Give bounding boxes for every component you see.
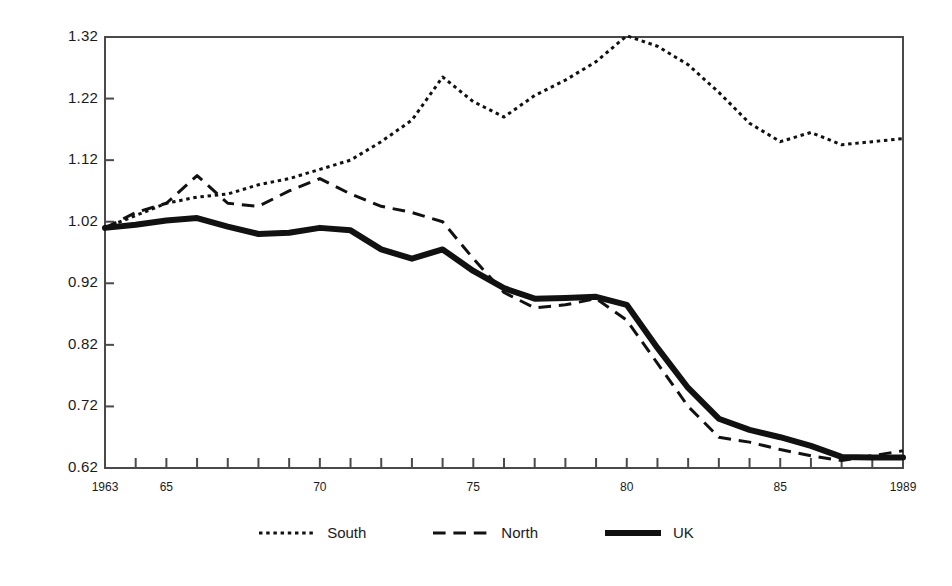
series-line-north: [105, 176, 903, 461]
x-tick-label: 80: [620, 480, 633, 494]
legend-label: North: [501, 524, 538, 541]
y-tick-label: 0.72: [34, 396, 98, 413]
series-line-uk: [105, 218, 903, 458]
x-tick-label: 70: [313, 480, 326, 494]
y-tick-label: 0.92: [34, 273, 98, 290]
legend-swatch-dashed: [432, 528, 490, 538]
x-tick-label: 1989: [890, 480, 917, 494]
legend-swatch-solid: [604, 528, 662, 538]
y-tick-label: 1.22: [34, 89, 98, 106]
line-chart: 0.620.720.820.921.021.121.221.32 1963657…: [0, 0, 952, 586]
y-tick-label: 0.62: [34, 458, 98, 475]
y-tick-label: 1.32: [34, 27, 98, 44]
plot-frame: [105, 37, 903, 468]
legend-swatch-dotted: [258, 528, 316, 538]
y-tick-label: 1.12: [34, 150, 98, 167]
chart-canvas: [0, 0, 952, 586]
y-tick-label: 1.02: [34, 212, 98, 229]
x-tick-label: 75: [467, 480, 480, 494]
x-tick-label: 1963: [92, 480, 119, 494]
x-tick-label: 65: [160, 480, 173, 494]
legend-label: South: [327, 524, 366, 541]
legend-item-uk: UK: [604, 524, 694, 541]
y-tick-label: 0.82: [34, 335, 98, 352]
legend-item-south: South: [258, 524, 366, 541]
legend-item-north: North: [432, 524, 538, 541]
x-tick-label: 85: [774, 480, 787, 494]
legend-label: UK: [673, 524, 694, 541]
series-layer: [105, 36, 903, 461]
chart-legend: SouthNorthUK: [0, 524, 952, 541]
axis-layer: [105, 37, 903, 468]
